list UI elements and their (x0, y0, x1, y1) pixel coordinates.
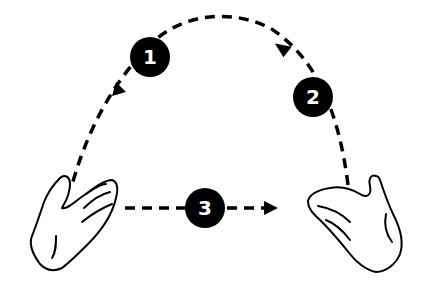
arrow-head-3 (264, 201, 278, 215)
step-badge-3: 3 (185, 188, 225, 228)
left-hand-icon (31, 176, 117, 270)
svg-text:3: 3 (198, 196, 212, 220)
svg-text:2: 2 (306, 85, 320, 109)
right-hand-icon (308, 175, 402, 272)
svg-text:1: 1 (143, 45, 157, 69)
step-badge-2: 2 (293, 77, 333, 117)
step-badge-1: 1 (130, 37, 170, 77)
juggling-diagram: 1 2 3 (0, 0, 436, 287)
